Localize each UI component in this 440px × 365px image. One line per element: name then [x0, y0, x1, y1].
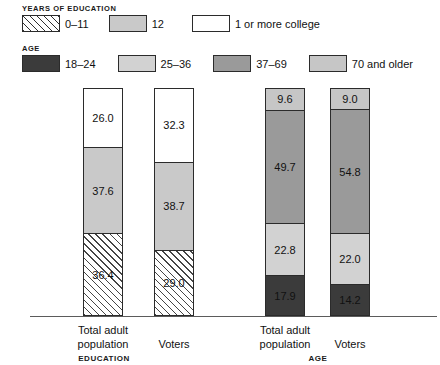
- bar-segment-value: 54.8: [339, 166, 360, 178]
- education-voters[interactable]: 32.338.729.0: [154, 88, 194, 316]
- chart-plot-area: 26.037.636.432.338.729.09.649.722.817.99…: [0, 0, 440, 365]
- bar-segment-value: 37.6: [92, 185, 113, 197]
- bar-segment-value: 26.0: [92, 112, 113, 124]
- bar-segment-value: 36.4: [92, 269, 113, 281]
- bar-segment[interactable]: 17.9: [265, 275, 305, 316]
- age-total-adult-population[interactable]: 9.649.722.817.9: [265, 88, 305, 316]
- bar-segment-value: 38.7: [163, 200, 184, 212]
- axis-tick-label: Voters: [302, 338, 398, 352]
- bar-segment-value: 14.2: [339, 294, 360, 306]
- bar-segment-value: 9.0: [342, 93, 357, 105]
- bar-segment-value: 22.0: [339, 253, 360, 265]
- bar-segment[interactable]: 9.0: [330, 88, 370, 109]
- bar-segment[interactable]: 37.6: [83, 147, 123, 233]
- bar-segment-value: 9.6: [277, 93, 292, 105]
- group-label-age: AGE: [243, 354, 393, 363]
- bar-segment[interactable]: 26.0: [83, 88, 123, 147]
- bar-segment[interactable]: 54.8: [330, 109, 370, 234]
- axis-baseline: [30, 316, 437, 317]
- group-label-education: EDUCATION: [29, 354, 179, 363]
- bar-segment-value: 49.7: [274, 161, 295, 173]
- bar-segment[interactable]: 32.3: [154, 88, 194, 162]
- bar-segment[interactable]: 29.0: [154, 250, 194, 316]
- bar-segment[interactable]: 38.7: [154, 162, 194, 250]
- education-total-adult-population[interactable]: 26.037.636.4: [83, 88, 123, 316]
- bar-segment[interactable]: 22.0: [330, 233, 370, 283]
- bar-segment-value: 22.8: [274, 244, 295, 256]
- bar-segment[interactable]: 9.6: [265, 88, 305, 110]
- bar-segment-value: 17.9: [274, 290, 295, 302]
- bar-segment[interactable]: 14.2: [330, 284, 370, 316]
- bar-segment[interactable]: 22.8: [265, 223, 305, 275]
- bar-segment[interactable]: 36.4: [83, 233, 123, 316]
- axis-tick-label: Voters: [126, 338, 222, 352]
- age-voters[interactable]: 9.054.822.014.2: [330, 88, 370, 316]
- bar-segment-value: 29.0: [163, 277, 184, 289]
- bar-segment[interactable]: 49.7: [265, 110, 305, 223]
- bar-segment-value: 32.3: [163, 119, 184, 131]
